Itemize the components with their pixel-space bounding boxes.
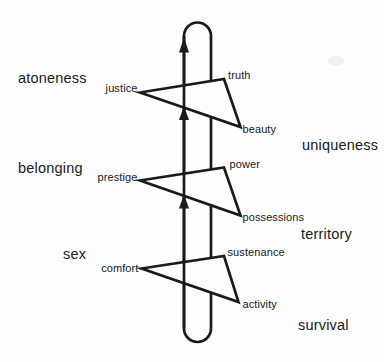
vane-label-beauty: beauty [243,123,277,135]
scan-smudge [328,56,344,66]
vane-label-possessions: possessions [243,211,305,223]
vane-level-top [140,79,241,127]
outer-label-survival: survival [298,317,349,333]
up-arrowhead-top [179,38,189,53]
vane-label-justice: justice [105,82,138,94]
vane-level-bottom [142,256,239,302]
outer-label-territory: territory [301,226,352,242]
outer-label-uniqueness: uniqueness [302,137,378,153]
outer-label-atoneness: atoneness [18,70,87,86]
vane-label-activity: activity [243,298,278,310]
vane-label-comfort: comfort [101,262,138,274]
needs-vane-diagram: atoneness uniqueness belonging territory… [0,0,384,362]
vane-label-power: power [230,158,261,170]
vane-label-sustenance: sustenance [228,246,285,258]
vane-level-middle [140,168,241,216]
outer-label-sex: sex [63,246,87,262]
vane-label-truth: truth [228,69,251,81]
vane-label-prestige: prestige [98,171,138,183]
diagram-canvas: atoneness uniqueness belonging territory… [0,0,384,362]
outer-label-belonging: belonging [18,160,83,176]
